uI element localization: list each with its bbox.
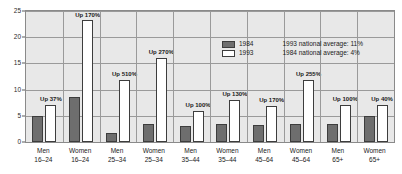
group-separator: [320, 11, 321, 142]
bar-1993: [229, 100, 240, 142]
x-axis-tick-label-line: Women: [290, 146, 312, 155]
legend-notes: 1993 national average: 11% 1984 national…: [260, 40, 362, 57]
x-axis-tick-label-line: 35–44: [216, 155, 238, 164]
x-axis-tick-label-line: Women: [69, 146, 91, 155]
bar-1993: [82, 20, 93, 142]
y-axis-tick-label: 0: [17, 139, 21, 146]
group-separator: [63, 11, 64, 142]
x-axis-tick-label-line: 45–64: [290, 155, 312, 164]
group-separator: [284, 11, 285, 142]
x-axis-tick-label-line: 25–34: [143, 155, 165, 164]
national-average-1993: 1993 national average: 11%: [282, 40, 362, 48]
y-axis-tick-label: 15: [14, 60, 21, 67]
legend-label-1984: 1984: [239, 40, 253, 48]
x-axis-tick-label: Men25–34: [108, 146, 126, 164]
x-axis-tick-label: Women16–24: [69, 146, 91, 164]
bar-chart: 0510152025 Up 37%Up 170%Up 510%Up 270%Up…: [0, 0, 402, 174]
x-axis-tick-label: Women35–44: [216, 146, 238, 164]
bar-1993: [303, 80, 314, 142]
legend-keys: 1984 1993: [222, 40, 253, 57]
group-separator: [210, 11, 211, 142]
x-axis-tick-label-line: 25–34: [108, 155, 126, 164]
bar-1984: [106, 133, 117, 142]
x-axis-tick-label: Men16–24: [34, 146, 52, 164]
y-axis-tick-label: 5: [17, 113, 21, 120]
group-separator: [173, 11, 174, 142]
x-axis-tick-label-line: Men: [34, 146, 52, 155]
y-axis-tick-label: 20: [14, 34, 21, 41]
bar-1993: [266, 106, 277, 142]
bar-1984: [32, 116, 43, 142]
x-axis-tick-label-line: Women: [363, 146, 385, 155]
national-average-1984: 1984 national average: 4%: [282, 49, 362, 57]
legend-swatch-1984: [222, 41, 235, 48]
x-axis-tick-label-line: Men: [331, 146, 344, 155]
x-axis-tick-label-line: 65+: [331, 155, 344, 164]
bar-1984: [143, 124, 154, 142]
bar-1993: [377, 105, 388, 142]
legend-item-1984: 1984: [222, 40, 253, 48]
legend-swatch-1993: [222, 50, 235, 57]
bar-annotation: Up 130%: [222, 91, 247, 97]
bar-1984: [327, 124, 338, 142]
x-axis-tick-label: Men65+: [331, 146, 344, 164]
x-axis-tick-label: Women45–64: [290, 146, 312, 164]
plot-area: Up 37%Up 170%Up 510%Up 270%Up 100%Up 130…: [25, 10, 395, 143]
bar-annotation: Up 270%: [149, 49, 174, 55]
x-axis-tick-label-line: Men: [182, 146, 200, 155]
x-axis-tick-label: Men45–64: [255, 146, 273, 164]
bar-annotation: Up 37%: [40, 96, 62, 102]
x-axis-tick-label-line: Women: [216, 146, 238, 155]
bar-annotation: Up 255%: [296, 71, 321, 77]
x-axis-tick-label: Women65+: [363, 146, 385, 164]
x-axis-tick-label-line: Women: [143, 146, 165, 155]
bar-annotation: Up 100%: [333, 96, 358, 102]
bar-annotation: Up 170%: [259, 97, 284, 103]
y-axis-tick-label: 10: [14, 86, 21, 93]
bar-1984: [253, 125, 264, 142]
group-separator: [136, 11, 137, 142]
bar-1984: [180, 126, 191, 142]
bar-annotation: Up 170%: [75, 12, 100, 18]
x-axis-tick-label-line: 16–24: [34, 155, 52, 164]
x-axis-tick-label-line: 65+: [363, 155, 385, 164]
x-axis-tick-label: Men35–44: [182, 146, 200, 164]
bar-1984: [216, 124, 227, 142]
group-separator: [100, 11, 101, 142]
x-axis-tick-label-line: 35–44: [182, 155, 200, 164]
bar-1993: [193, 111, 204, 142]
x-axis-tick-label-line: 45–64: [255, 155, 273, 164]
legend-item-1993: 1993: [222, 49, 253, 57]
x-axis-tick-label-line: Men: [108, 146, 126, 155]
bar-1984: [364, 116, 375, 142]
legend-label-1993: 1993: [239, 49, 253, 57]
group-separator: [357, 11, 358, 142]
bar-annotation: Up 510%: [112, 71, 137, 77]
y-axis: 0510152025: [0, 10, 25, 143]
y-axis-tick-label: 25: [14, 8, 21, 15]
x-axis-tick-label: Women25–34: [143, 146, 165, 164]
bar-1984: [69, 97, 80, 142]
x-axis-tick-label-line: Men: [255, 146, 273, 155]
x-axis: Men16–24Women16–24Men25–34Women25–34Men3…: [25, 146, 395, 172]
bar-annotation: Up 40%: [371, 96, 393, 102]
bar-1993: [45, 105, 56, 142]
bar-1993: [156, 58, 167, 142]
group-separator: [247, 11, 248, 142]
bar-1984: [290, 124, 301, 142]
bar-annotation: Up 100%: [186, 102, 211, 108]
x-axis-tick-label-line: 16–24: [69, 155, 91, 164]
bar-1993: [119, 80, 130, 142]
chart-legend: 1984 1993 1993 national average: 11% 198…: [222, 40, 363, 57]
bar-1993: [340, 105, 351, 142]
